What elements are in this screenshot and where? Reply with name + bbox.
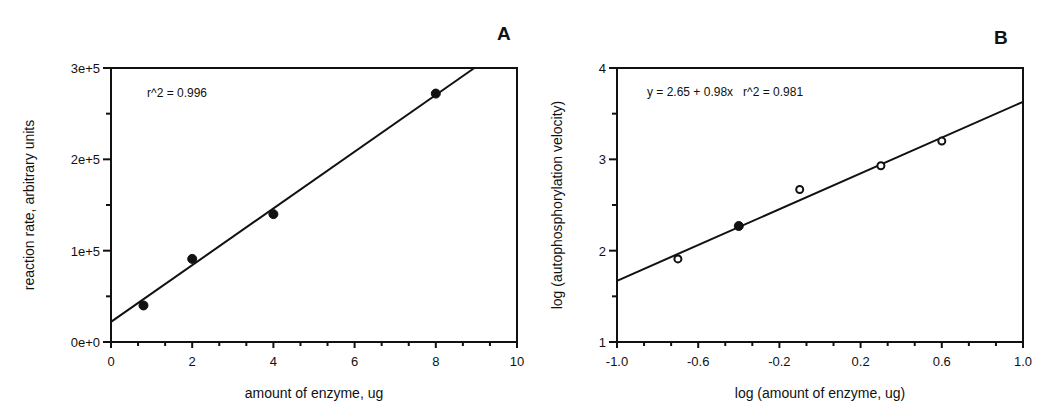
x-tick-label: 0 bbox=[107, 354, 114, 369]
data-point-open bbox=[877, 162, 884, 169]
x-tick-label: 10 bbox=[510, 354, 524, 369]
data-point-open bbox=[674, 255, 681, 262]
y-axis-title: reaction rate, arbitrary units bbox=[21, 120, 37, 290]
panel-letter: B bbox=[994, 27, 1008, 48]
x-tick-label: -0.6 bbox=[687, 354, 709, 369]
plot-frame bbox=[617, 68, 1023, 342]
chart-panel-a: 02468100e+01e+52e+53e+5amount of enzyme,… bbox=[21, 23, 524, 401]
y-tick-label: 2e+5 bbox=[71, 152, 100, 167]
regression-line bbox=[111, 68, 474, 322]
x-tick-label: 6 bbox=[351, 354, 358, 369]
regression-annotation: r^2 = 0.996 bbox=[147, 86, 207, 100]
data-point-open bbox=[796, 186, 803, 193]
x-axis-title: log (amount of enzyme, ug) bbox=[735, 385, 905, 401]
plot-frame bbox=[111, 68, 517, 342]
x-tick-label: -0.2 bbox=[768, 354, 790, 369]
y-tick-label: 0e+0 bbox=[71, 335, 100, 350]
y-tick-label: 2 bbox=[599, 244, 606, 259]
regression-line bbox=[617, 102, 1023, 281]
x-tick-label: -1.0 bbox=[606, 354, 628, 369]
y-tick-label: 4 bbox=[599, 61, 606, 76]
data-point-filled bbox=[188, 254, 197, 263]
y-tick-label: 3 bbox=[599, 152, 606, 167]
figure: 02468100e+01e+52e+53e+5amount of enzyme,… bbox=[0, 0, 1047, 418]
y-tick-label: 1e+5 bbox=[71, 244, 100, 259]
chart-panel-b: -1.0-0.6-0.20.20.61.01234log (amount of … bbox=[549, 27, 1032, 401]
data-point-filled bbox=[139, 301, 148, 310]
x-tick-label: 0.2 bbox=[852, 354, 870, 369]
panel-letter: A bbox=[497, 23, 511, 44]
y-tick-label: 1 bbox=[599, 335, 606, 350]
data-point-filled bbox=[734, 222, 743, 231]
x-tick-label: 2 bbox=[189, 354, 196, 369]
data-point-open bbox=[938, 138, 945, 145]
regression-annotation: y = 2.65 + 0.98x r^2 = 0.981 bbox=[647, 85, 803, 99]
x-axis-title: amount of enzyme, ug bbox=[245, 385, 384, 401]
data-point-filled bbox=[269, 210, 278, 219]
x-tick-label: 0.6 bbox=[933, 354, 951, 369]
y-axis-title: log (autophosphorylation velocity) bbox=[549, 101, 565, 310]
x-tick-label: 4 bbox=[270, 354, 277, 369]
data-point-filled bbox=[431, 89, 440, 98]
x-tick-label: 8 bbox=[432, 354, 439, 369]
x-tick-label: 1.0 bbox=[1014, 354, 1032, 369]
y-tick-label: 3e+5 bbox=[71, 61, 100, 76]
